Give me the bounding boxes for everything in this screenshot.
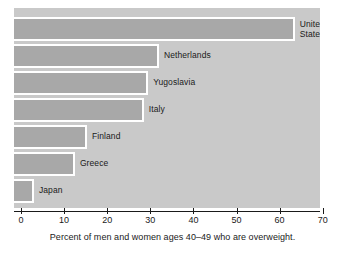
bar-yugoslavia [14, 71, 148, 95]
bar-row: Netherlands [14, 44, 320, 68]
bar-label-greece: Greece [80, 159, 108, 169]
bar-label-yugoslavia: Yugoslavia [153, 78, 195, 88]
chart-caption: Percent of men and women ages 40–49 who … [0, 232, 345, 242]
bar-label-finland: Finland [92, 132, 121, 142]
x-tick-60 [280, 208, 281, 214]
x-tick-30 [150, 208, 151, 214]
bar-row: United States [14, 17, 320, 41]
x-tick-50 [237, 208, 238, 214]
bar-chart-figure: United StatesNetherlandsYugoslaviaItalyF… [0, 0, 345, 255]
bar-netherlands [14, 44, 159, 68]
x-tick-70 [323, 208, 324, 214]
bar-row: Greece [14, 152, 320, 176]
bar-rows: United StatesNetherlandsYugoslaviaItalyF… [14, 8, 320, 208]
bar-label-italy: Italy [149, 105, 165, 115]
x-axis-line [14, 211, 320, 212]
bar-japan [14, 179, 34, 203]
bar-finland [14, 125, 87, 149]
x-tick-label-60: 60 [275, 215, 285, 225]
bar-row: Japan [14, 179, 320, 203]
bar-label-united-states: United States [300, 20, 320, 39]
x-tick-40 [193, 208, 194, 214]
bar-row: Finland [14, 125, 320, 149]
x-tick-label-70: 70 [318, 215, 328, 225]
x-tick-label-30: 30 [145, 215, 155, 225]
bar-label-netherlands: Netherlands [164, 51, 211, 61]
x-tick-20 [107, 208, 108, 214]
x-tick-0 [21, 208, 22, 214]
x-tick-label-10: 10 [59, 215, 69, 225]
plot-area: United StatesNetherlandsYugoslaviaItalyF… [14, 8, 320, 208]
x-tick-label-40: 40 [188, 215, 198, 225]
x-axis: 010203040506070 [14, 208, 320, 230]
bar-greece [14, 152, 75, 176]
bar-italy [14, 98, 144, 122]
bar-row: Yugoslavia [14, 71, 320, 95]
bar-label-japan: Japan [39, 186, 63, 196]
x-tick-label-0: 0 [18, 215, 23, 225]
x-tick-label-20: 20 [102, 215, 112, 225]
bar-row: Italy [14, 98, 320, 122]
x-tick-label-50: 50 [231, 215, 241, 225]
bar-united-states [14, 17, 295, 41]
x-tick-10 [64, 208, 65, 214]
